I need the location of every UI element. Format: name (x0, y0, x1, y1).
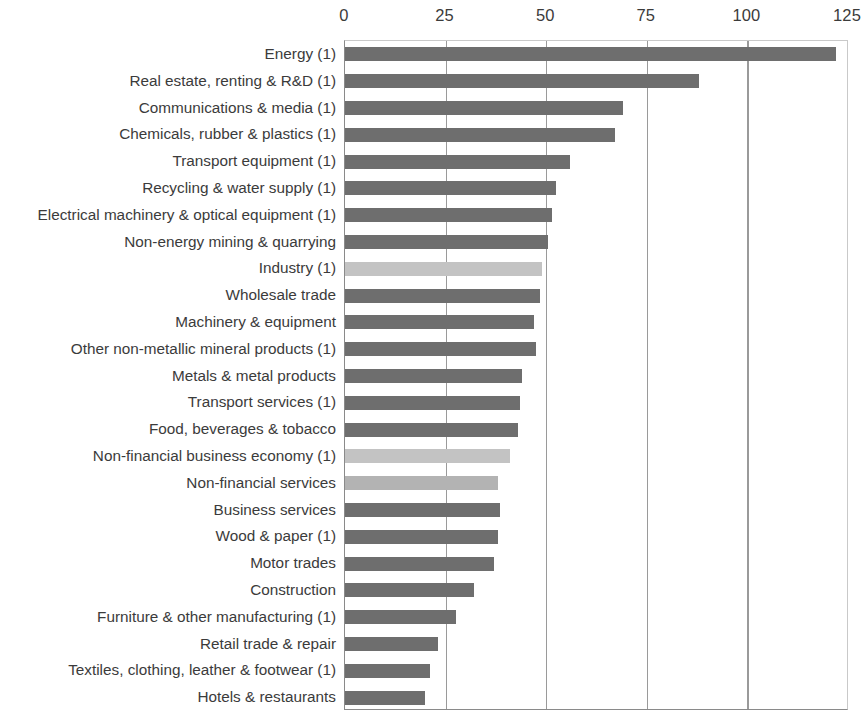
bar (345, 181, 556, 195)
bar-chart: 0255075100125 Energy (1)Real estate, ren… (0, 0, 862, 724)
category-label: Other non-metallic mineral products (1) (71, 341, 336, 356)
bar (345, 289, 540, 303)
gridline (647, 41, 648, 709)
category-label: Furniture & other manufacturing (1) (97, 609, 336, 624)
category-label: Metals & metal products (172, 368, 336, 383)
category-label: Non-financial services (186, 475, 336, 490)
category-label: Recycling & water supply (1) (142, 180, 336, 195)
category-label: Construction (250, 582, 336, 597)
plot-area (344, 40, 848, 710)
bar (345, 342, 536, 356)
x-tick-label: 100 (732, 6, 760, 25)
bar (345, 664, 430, 678)
category-label: Non-energy mining & quarrying (124, 234, 336, 249)
bar (345, 557, 494, 571)
category-label: Retail trade & repair (200, 636, 336, 651)
bar (345, 208, 552, 222)
category-label: Non-financial business economy (1) (93, 448, 336, 463)
bar (345, 396, 520, 410)
x-tick-label: 75 (637, 6, 656, 25)
bar (345, 637, 438, 651)
bar (345, 47, 836, 61)
category-label: Wood & paper (1) (216, 528, 336, 543)
bar (345, 610, 456, 624)
category-label: Real estate, renting & R&D (1) (129, 73, 336, 88)
bar (345, 423, 518, 437)
bar (345, 476, 498, 490)
category-label: Machinery & equipment (175, 314, 336, 329)
category-label: Wholesale trade (225, 287, 336, 302)
category-label: Communications & media (1) (139, 100, 336, 115)
x-axis-tick-labels: 0255075100125 (0, 0, 862, 40)
bar (345, 128, 615, 142)
bar (345, 74, 699, 88)
category-label: Food, beverages & tobacco (149, 421, 336, 436)
bar (345, 101, 623, 115)
category-label: Motor trades (250, 555, 336, 570)
category-label: Transport services (1) (188, 394, 336, 409)
bar (345, 530, 498, 544)
bar (345, 583, 474, 597)
x-tick-label: 25 (435, 6, 454, 25)
category-label: Electrical machinery & optical equipment… (38, 207, 336, 222)
category-label: Industry (1) (259, 260, 336, 275)
category-label-column: Energy (1)Real estate, renting & R&D (1)… (0, 40, 344, 710)
bar (345, 503, 500, 517)
x-tick-label: 125 (833, 6, 861, 25)
bar (345, 369, 522, 383)
category-label: Business services (214, 502, 336, 517)
bar (345, 449, 510, 463)
gridline (747, 41, 748, 709)
bar (345, 155, 570, 169)
bar (345, 235, 548, 249)
bar (345, 315, 534, 329)
category-label: Transport equipment (1) (172, 153, 336, 168)
category-label: Chemicals, rubber & plastics (1) (119, 126, 336, 141)
x-tick-label: 50 (536, 6, 555, 25)
bar (345, 691, 425, 705)
x-tick-label: 0 (339, 6, 348, 25)
category-label: Hotels & restaurants (197, 689, 336, 704)
category-label: Energy (1) (265, 46, 336, 61)
category-label: Textiles, clothing, leather & footwear (… (68, 662, 336, 677)
bar (345, 262, 542, 276)
